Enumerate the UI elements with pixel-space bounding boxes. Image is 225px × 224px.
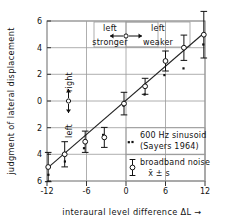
errorbar-point <box>61 142 68 167</box>
y-tick-label-0: 6 <box>37 17 42 26</box>
chart-figure: 6 4 2 0 2 4 6 -12 -6 0 6 12 judgment of … <box>0 0 225 224</box>
errorbar-point <box>201 11 208 58</box>
x-tick-label-1: -6 <box>83 187 91 196</box>
annotation-left-stronger-line2: stronger <box>92 38 128 47</box>
annotation-left-weaker-line1: left <box>151 24 165 33</box>
y-tick-label-1: 4 <box>37 44 42 53</box>
x-tick-label-4: 12 <box>200 187 210 196</box>
lateralization-scatter-chart: 6 4 2 0 2 4 6 -12 -6 0 6 12 judgment of … <box>0 0 225 224</box>
legend-label-broadband-line1: broadband noise <box>140 158 210 167</box>
annotation-left-weaker-line2: weaker <box>143 38 174 47</box>
y-tick-label-3: 0 <box>37 97 42 106</box>
legend-marker-errorbar-icon <box>130 160 136 176</box>
errorbar-point <box>45 152 52 181</box>
top-annotation: left stronger left weaker <box>92 22 190 47</box>
sinusoid-dot <box>182 67 184 69</box>
legend: 600 Hz sinusoid (Sayers 1964) broadband … <box>126 128 210 181</box>
errorbar-point <box>181 35 188 60</box>
errorbar-point <box>101 127 108 147</box>
y-tick-label-4: 2 <box>37 124 42 133</box>
y-tick-label-2: 2 <box>37 70 42 79</box>
errorbar-point <box>142 78 149 94</box>
x-tick-label-2: 0 <box>123 187 128 196</box>
legend-label-sinusoid-line2: (Sayers 1964) <box>140 142 199 151</box>
x-axis-ticks <box>47 181 205 186</box>
legend-label-broadband-line2: x̄ ± s <box>148 169 170 178</box>
y-tick-labels: 6 4 2 0 2 4 6 <box>37 17 42 186</box>
annotation-center-circle-marker <box>124 34 128 38</box>
x-tick-label-0: -12 <box>40 187 53 196</box>
errorbar-point <box>82 131 89 152</box>
annotation-left-stronger-line1: left <box>103 24 117 33</box>
sinusoid-dot <box>128 141 130 143</box>
annotation-vertical-circle-marker <box>66 99 70 103</box>
y-axis-ticks <box>47 21 51 181</box>
x-tick-label-3: 6 <box>163 187 168 196</box>
legend-marker-sinusoid-dot-icon <box>131 141 133 143</box>
annotation-left-label: left <box>65 124 74 138</box>
x-tick-labels: -12 -6 0 6 12 <box>40 187 210 196</box>
annotation-right-label: right <box>65 72 74 92</box>
y-tick-label-6: 6 <box>37 177 42 186</box>
legend-label-sinusoid-line1: 600 Hz sinusoid <box>140 131 206 140</box>
y-tick-label-5: 4 <box>37 150 42 159</box>
y-axis-title: judgment of lateral displacement <box>6 27 16 176</box>
vertical-annotation: right left <box>65 72 74 138</box>
x-axis-title: interaural level difference ΔL → <box>62 207 201 217</box>
sinusoid-dot <box>163 74 165 76</box>
